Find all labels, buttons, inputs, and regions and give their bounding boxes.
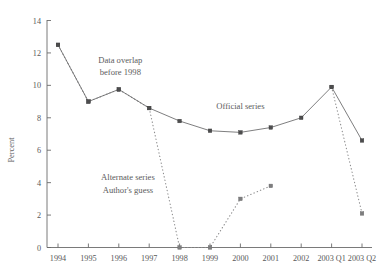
data-point-marker [178,246,182,250]
x-tick-label: 1996 [111,254,127,263]
y-tick-label: 4 [37,179,41,188]
y-axis-tick-labels: 02468101214 [33,17,41,253]
x-tick-label: 2001 [263,254,279,263]
data-point-marker [178,119,182,123]
data-point-marker [239,131,243,135]
y-tick-label: 0 [37,244,41,253]
x-tick-label: 1998 [171,254,187,263]
x-tick-label: 1999 [202,254,218,263]
data-point-marker [147,106,151,110]
data-point-marker [87,100,91,104]
data-point-marker [208,246,212,250]
chart-plot-area: 02468101214 1994199519961997199819992000… [0,0,380,272]
x-tick-label: 2003 Q2 [348,254,376,263]
data-point-marker [56,43,60,47]
data-point-marker [269,184,273,188]
data-point-marker [360,212,364,216]
y-tick-label: 14 [33,17,41,26]
x-tick-label: 2000 [232,254,248,263]
annotation-alternate-series-line2: Author's guess [103,185,154,195]
y-tick-label: 10 [33,81,41,90]
data-point-marker [269,126,273,130]
annotation-official-series: Official series [216,101,265,111]
data-point-marker [208,129,212,133]
annotation-data-overlap-line2: before 1998 [100,67,141,77]
x-tick-label: 2002 [293,254,309,263]
y-tick-label: 12 [33,49,41,58]
chart-container: 02468101214 1994199519961997199819992000… [0,0,380,272]
y-tick-label: 2 [37,211,41,220]
annotation-data-overlap: Data overlap [98,55,142,65]
y-tick-label: 6 [37,146,41,155]
data-point-marker [360,139,364,143]
y-axis-ticks [47,21,51,248]
chart-annotations: Data overlapbefore 1998Official seriesAl… [98,55,265,195]
data-point-marker [299,116,303,120]
x-tick-label: 1997 [141,254,157,263]
y-tick-label: 8 [37,114,41,123]
x-tick-label: 2003 Q1 [317,254,345,263]
annotation-alternate-series: Alternate series [101,172,155,182]
x-tick-label: 1994 [50,254,66,263]
x-tick-label: 1995 [80,254,96,263]
x-axis-tick-labels: 1994199519961997199819992000200120022003… [50,254,376,263]
y-axis-title: Percent [7,137,16,163]
data-point-marker [117,88,121,92]
data-point-marker [239,197,243,201]
data-point-marker [330,85,334,89]
